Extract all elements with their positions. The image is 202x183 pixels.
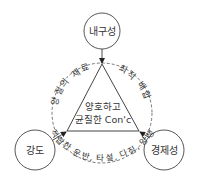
- node-durability: 내구성: [84, 13, 120, 49]
- node-durability-label: 내구성: [89, 26, 116, 37]
- arc-label-left: 양질의 재료: [50, 62, 92, 107]
- node-economy-label: 경제성: [151, 144, 178, 156]
- concrete-quality-diagram: 내구성 강도 경제성 양호하고 균질한 Con'c 양질의 재료 최적 배합 적…: [0, 0, 202, 183]
- center-label-line1: 양호하고: [85, 101, 121, 112]
- node-strength-label: 강도: [26, 145, 44, 156]
- node-strength: 강도: [15, 130, 55, 170]
- arc-label-right: 최적 배합: [117, 63, 153, 101]
- center-label-line2: 균질한 Con'c: [75, 114, 131, 125]
